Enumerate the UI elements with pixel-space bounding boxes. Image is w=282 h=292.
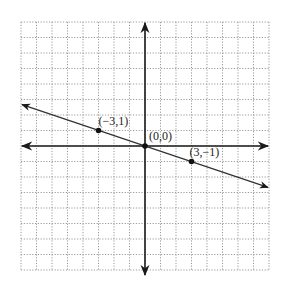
data-point xyxy=(189,159,195,165)
data-point xyxy=(142,143,148,149)
coordinate-plane: (−3,1)(0,0)(3,−1) xyxy=(0,0,282,292)
point-label: (−3,1) xyxy=(99,114,129,128)
point-label: (0,0) xyxy=(149,129,172,143)
data-point xyxy=(96,128,102,134)
point-label: (3,−1) xyxy=(190,145,220,159)
